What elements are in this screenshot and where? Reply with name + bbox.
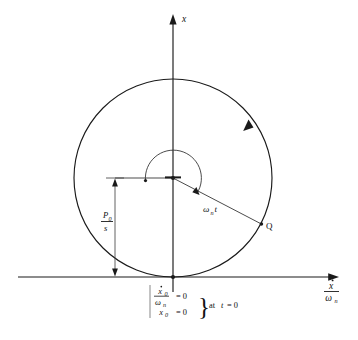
origin-tangent-dot <box>171 275 175 279</box>
ic-velocity-numerator: x <box>157 287 162 296</box>
vertical-axis-label: x <box>181 14 187 24</box>
angle-arc-start-dot <box>144 179 147 182</box>
horizontal-axis-denominator: ω <box>325 293 332 303</box>
horizontal-axis-numerator-dot <box>332 279 334 281</box>
ic-time-prefix: at <box>209 301 216 310</box>
phase-plane-figure: x x ω n Q ω n t P 0 s <box>0 0 358 340</box>
angle-label-omega: ω <box>203 204 209 214</box>
ic-velocity-denominator: ω <box>155 298 161 307</box>
angle-label-subscript: n <box>211 209 214 216</box>
ic-velocity-equals: = 0 <box>176 292 187 301</box>
horizontal-axis-denominator-subscript: n <box>335 297 338 304</box>
ic-velocity-numerator-dot <box>160 286 162 288</box>
point-q-marker <box>260 222 264 226</box>
ic-displacement-equals: = 0 <box>176 308 187 317</box>
figure-background <box>0 0 358 340</box>
ic-velocity-denominator-subscript: n <box>163 301 166 308</box>
ic-time-value: = 0 <box>227 301 238 310</box>
horizontal-axis-numerator: x <box>328 281 334 291</box>
phase-plane-diagram: x x ω n Q ω n t P 0 s <box>0 0 358 340</box>
point-q-label: Q <box>266 221 273 231</box>
ic-displacement-variable: x <box>158 308 163 317</box>
